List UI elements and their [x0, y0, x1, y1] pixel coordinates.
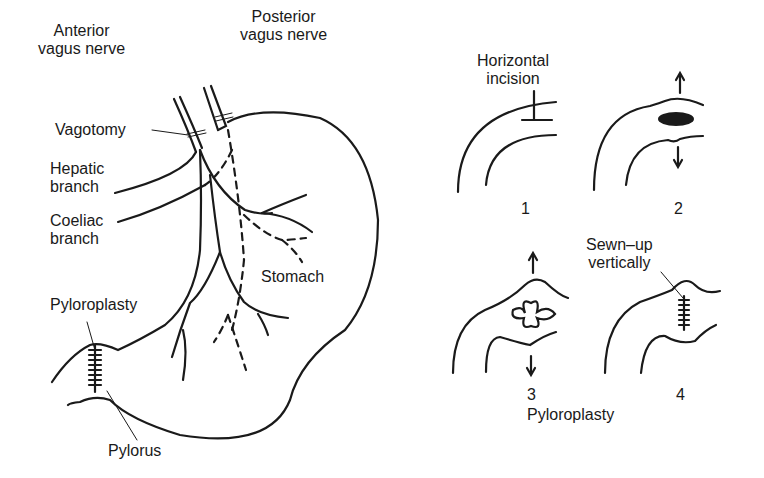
step-number-3: 3 [527, 386, 536, 404]
label-posterior-vagus-nerve: Posterior vagus nerve [240, 8, 327, 44]
step-number-2: 2 [674, 200, 683, 218]
label-stomach: Stomach [261, 268, 324, 286]
step-1-drawing [458, 91, 556, 192]
label-pyloroplasty: Pyloroplasty [50, 296, 137, 314]
label-vagotomy: Vagotomy [55, 121, 126, 139]
label-horizontal-incision: Horizontal incision [477, 52, 549, 88]
label-coeliac-branch: Coeliac branch [50, 212, 103, 248]
step-3-drawing [453, 253, 568, 375]
step-number-4: 4 [676, 386, 685, 404]
stomach-outline [68, 112, 378, 438]
label-sewn-up-vertically: Sewn–up vertically [586, 236, 653, 272]
step-4-drawing [605, 272, 720, 373]
label-hepatic-branch: Hepatic branch [50, 160, 104, 196]
posterior-vagus-nerve [204, 88, 218, 130]
step-2-drawing [594, 73, 703, 190]
label-anterior-vagus-nerve: Anterior vagus nerve [38, 22, 125, 58]
step-number-1: 1 [521, 200, 530, 218]
label-pylorus: Pylorus [108, 442, 161, 460]
pyloroplasty-title: Pyloroplasty [527, 406, 614, 424]
